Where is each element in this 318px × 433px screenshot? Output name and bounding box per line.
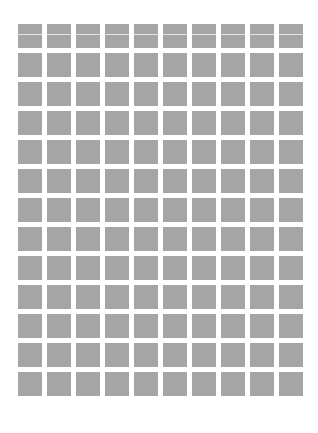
grid-cell [163,372,187,396]
grid-cell [192,169,216,193]
grid-cell [221,111,245,135]
grid-cell [163,82,187,106]
grid-cell [250,169,274,193]
grid-cell [163,285,187,309]
grid-cell [192,285,216,309]
grid-cell [192,140,216,164]
grid-cell [192,111,216,135]
grid-cell [47,314,71,338]
grid-cell [250,198,274,222]
grid-cell [279,285,303,309]
grid-cell [47,285,71,309]
grid-cell [250,82,274,106]
grid-cell [163,140,187,164]
grid-cell [279,53,303,77]
grid-cell [192,24,216,48]
grid-cell [221,285,245,309]
grid-cell [221,256,245,280]
grid-cell [192,53,216,77]
grid-cell [279,140,303,164]
grid-cell [163,314,187,338]
grid-cell [47,53,71,77]
grid-cell [279,314,303,338]
grid-cell [76,314,100,338]
grid-cell [279,227,303,251]
grid-cell [250,24,274,48]
square-grid [18,24,303,396]
grid-cell [279,169,303,193]
grid-cell [134,24,158,48]
grid-cell [105,24,129,48]
grid-cell [105,82,129,106]
grid-cell [18,372,42,396]
grid-cell [279,24,303,48]
grid-cell [47,111,71,135]
grid-cell [47,256,71,280]
grid-cell [134,169,158,193]
grid-cell [192,198,216,222]
grid-cell [134,53,158,77]
grid-cell [221,372,245,396]
grid-cell [163,343,187,367]
grid-cell [18,256,42,280]
grid-cell [134,198,158,222]
grid-cell [134,343,158,367]
grid-cell [279,256,303,280]
grid-cell [18,198,42,222]
grid-cell [250,256,274,280]
grid-cell [18,53,42,77]
grid-cell [105,256,129,280]
grid-cell [221,227,245,251]
grid-cell [163,53,187,77]
grid-cell [163,256,187,280]
grid-cell [134,111,158,135]
grid-cell [134,314,158,338]
grid-cell [47,198,71,222]
grid-cell [18,169,42,193]
grid-cell [105,285,129,309]
grid-cell [105,372,129,396]
grid-cell [250,343,274,367]
grid-cell [192,227,216,251]
grid-cell [192,343,216,367]
grid-cell [47,169,71,193]
grid-cell [105,343,129,367]
grid-cell [192,372,216,396]
grid-cell [279,111,303,135]
grid-cell [134,256,158,280]
grid-cell [134,140,158,164]
grid-cell [105,169,129,193]
grid-cell [76,372,100,396]
grid-cell [105,198,129,222]
grid-cell [18,82,42,106]
grid-cell [221,82,245,106]
grid-cell [192,256,216,280]
grid-cell [279,82,303,106]
grid-cell [105,111,129,135]
grid-cell [18,314,42,338]
grid-cell [76,285,100,309]
grid-cell [163,198,187,222]
grid-cell [47,24,71,48]
grid-cell [250,111,274,135]
grid-cell [76,169,100,193]
grid-cell [221,140,245,164]
grid-cell [76,53,100,77]
grid-cell [221,53,245,77]
grid-cell [76,24,100,48]
grid-cell [76,140,100,164]
grid-cell [250,285,274,309]
grid-cell [250,53,274,77]
grid-cell [134,227,158,251]
grid-cell [163,169,187,193]
grid-cell [163,111,187,135]
grid-cell [163,24,187,48]
grid-cell [250,372,274,396]
grid-cell [221,343,245,367]
grid-cell [76,82,100,106]
grid-cell [221,314,245,338]
grid-cell [47,82,71,106]
grid-cell [47,372,71,396]
grid-cell [18,140,42,164]
grid-cell [18,285,42,309]
